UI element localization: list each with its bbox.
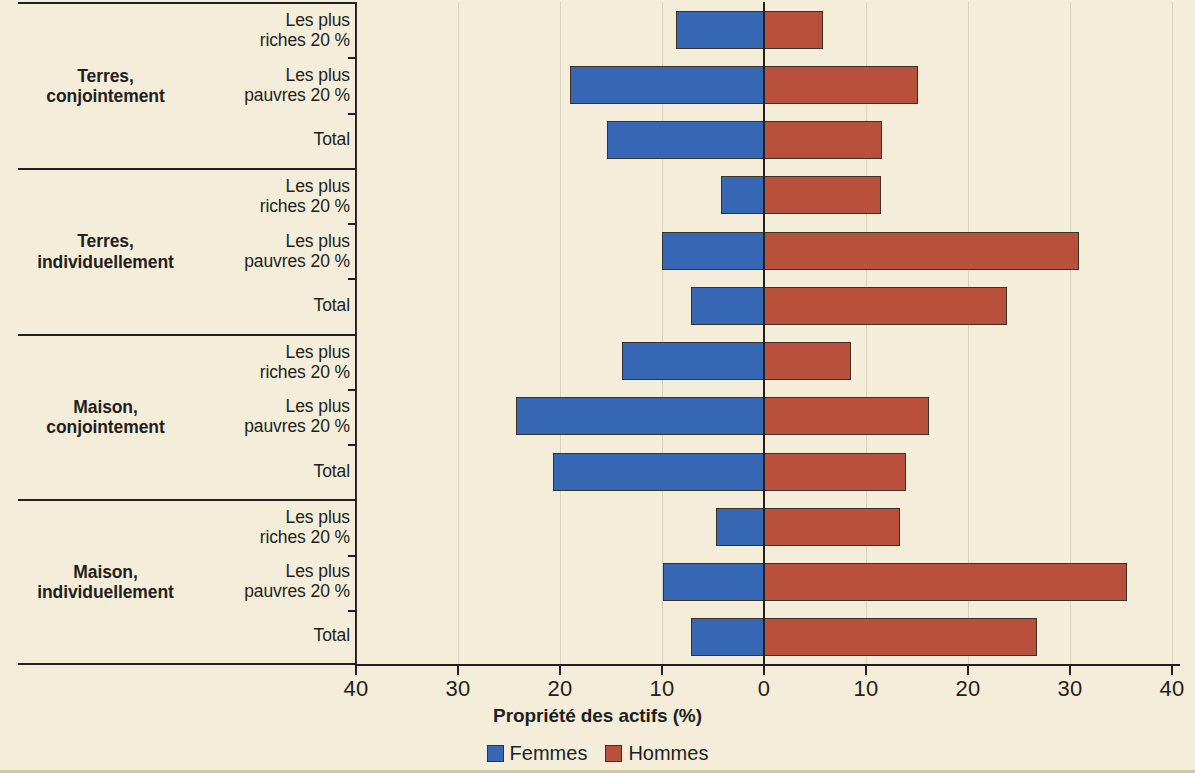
row-label-line1: Les plus xyxy=(193,343,350,363)
legend-item[interactable]: Femmes xyxy=(487,742,588,765)
row-label-line1: Les plus xyxy=(193,11,350,31)
legend-label: Femmes xyxy=(510,742,588,765)
row-label-line1: Les plus xyxy=(193,66,350,86)
bar-femmes xyxy=(721,176,765,214)
plot-area xyxy=(355,2,1180,665)
group-title-line1: Maison, xyxy=(18,397,193,417)
diverging-bar-chart: Terres,conjointementLes plusriches 20 %L… xyxy=(0,0,1195,773)
category-row-label: Total xyxy=(193,113,356,168)
row-label-line1: Les plus xyxy=(193,232,350,252)
group-title-line1: Terres, xyxy=(18,66,193,86)
bar-femmes xyxy=(691,287,765,325)
row-label-line2: pauvres 20 % xyxy=(193,86,350,106)
group-title-line1: Terres, xyxy=(18,231,193,251)
bar-femmes xyxy=(676,11,765,49)
row-label-line1: Les plus xyxy=(193,177,350,197)
bar-hommes xyxy=(764,342,851,380)
x-axis-tick xyxy=(967,664,969,675)
bar-row xyxy=(355,66,1180,104)
bar-row xyxy=(355,508,1180,546)
bar-hommes xyxy=(764,563,1127,601)
row-label-line2: riches 20 % xyxy=(193,363,350,383)
x-axis-tick xyxy=(457,664,459,675)
x-axis-tick-label: 10 xyxy=(853,676,878,702)
group-title-line2: conjointement xyxy=(18,86,193,106)
category-row-label: Les pluspauvres 20 % xyxy=(193,390,356,445)
x-axis-tick-label: 40 xyxy=(343,676,368,702)
bar-femmes xyxy=(553,453,765,491)
x-axis-title: Propriété des actifs (%) xyxy=(0,705,1195,727)
bar-row xyxy=(355,121,1180,159)
bar-row xyxy=(355,176,1180,214)
bar-row xyxy=(355,287,1180,325)
bar-femmes xyxy=(716,508,765,546)
zero-baseline xyxy=(763,2,765,665)
row-label-line1: Les plus xyxy=(193,397,350,417)
row-label-line2: riches 20 % xyxy=(193,197,350,217)
x-axis-tick-label: 20 xyxy=(955,676,980,702)
category-row-label: Les pluspauvres 20 % xyxy=(193,59,356,114)
legend-swatch-icon xyxy=(487,745,504,762)
category-row-label: Les plusriches 20 % xyxy=(193,336,356,391)
group-title-line2: conjointement xyxy=(18,417,193,437)
row-label-line2: riches 20 % xyxy=(193,528,350,548)
category-group-title: Maison,individuellement xyxy=(18,562,193,603)
row-label-line1: Les plus xyxy=(193,508,350,528)
group-title-line1: Maison, xyxy=(18,562,193,582)
x-axis-tick xyxy=(1171,664,1173,675)
bar-row xyxy=(355,342,1180,380)
bar-row xyxy=(355,563,1180,601)
category-row-labels: Les plusriches 20 %Les pluspauvres 20 %T… xyxy=(193,4,356,168)
category-row-label: Total xyxy=(193,445,356,500)
category-row-labels: Les plusriches 20 %Les pluspauvres 20 %T… xyxy=(193,336,356,500)
x-axis-tick-label: 20 xyxy=(547,676,572,702)
bar-hommes xyxy=(764,453,906,491)
bar-femmes xyxy=(662,232,765,270)
bar-femmes xyxy=(607,121,765,159)
category-row-label: Les plusriches 20 % xyxy=(193,501,356,555)
x-axis-tick-label: 0 xyxy=(758,676,771,702)
x-axis-tick-label: 30 xyxy=(445,676,470,702)
category-row-label: Les pluspauvres 20 % xyxy=(193,555,356,609)
row-label-line2: pauvres 20 % xyxy=(193,252,350,272)
category-group-title: Terres,conjointement xyxy=(18,66,193,107)
x-axis-tick-label: 10 xyxy=(649,676,674,702)
row-label-line1: Total xyxy=(193,462,350,482)
category-group: Terres,individuellementLes plusriches 20… xyxy=(18,168,356,334)
category-row-label: Les plusriches 20 % xyxy=(193,170,356,225)
row-label-line1: Total xyxy=(193,130,350,150)
row-label-line2: pauvres 20 % xyxy=(193,417,350,437)
legend-label: Hommes xyxy=(628,742,708,765)
category-row-label: Total xyxy=(193,609,356,663)
bar-femmes xyxy=(622,342,765,380)
chart-legend: FemmesHommes xyxy=(0,742,1195,765)
group-title-line2: individuellement xyxy=(18,582,193,602)
group-title-line2: individuellement xyxy=(18,252,193,272)
category-group: Maison,individuellementLes plusriches 20… xyxy=(18,499,356,665)
bar-hommes xyxy=(764,66,918,104)
x-axis-tick-label: 40 xyxy=(1159,676,1184,702)
bar-hommes xyxy=(764,121,882,159)
bar-hommes xyxy=(764,618,1037,656)
x-axis-tick xyxy=(355,664,357,675)
bar-row xyxy=(355,11,1180,49)
legend-item[interactable]: Hommes xyxy=(605,742,708,765)
bar-hommes xyxy=(764,397,929,435)
chart-page: Terres,conjointementLes plusriches 20 %L… xyxy=(0,0,1195,773)
bar-hommes xyxy=(764,11,823,49)
row-label-line1: Total xyxy=(193,296,350,316)
x-axis-tick xyxy=(559,664,561,675)
legend-swatch-icon xyxy=(605,745,622,762)
bar-row xyxy=(355,232,1180,270)
bar-femmes xyxy=(663,563,765,601)
x-axis-tick xyxy=(1069,664,1071,675)
category-row-labels: Les plusriches 20 %Les pluspauvres 20 %T… xyxy=(193,170,356,334)
x-axis-tick xyxy=(661,664,663,675)
category-row-labels: Les plusriches 20 %Les pluspauvres 20 %T… xyxy=(193,501,356,663)
bar-femmes xyxy=(691,618,765,656)
category-group: Maison,conjointementLes plusriches 20 %L… xyxy=(18,334,356,500)
category-row-label: Les plusriches 20 % xyxy=(193,4,356,59)
row-label-line1: Total xyxy=(193,626,350,646)
bar-femmes xyxy=(516,397,765,435)
x-axis-tick xyxy=(865,664,867,675)
